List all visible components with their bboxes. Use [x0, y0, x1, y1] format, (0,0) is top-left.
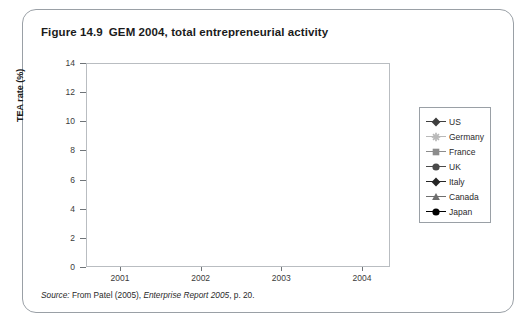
circle-marker-icon	[426, 206, 446, 218]
data-point-marker	[433, 148, 440, 155]
y-tick-label: 4	[23, 204, 75, 214]
source-text-after: , p. 20.	[229, 290, 254, 300]
y-tick-label: 2	[23, 233, 75, 243]
legend: USGermanyFranceUKItalyCanadaJapan	[419, 107, 491, 223]
legend-item-germany[interactable]: Germany	[426, 129, 490, 144]
plot-area	[86, 63, 390, 267]
page-title: Figure 14.9GEM 2004, total entrepreneuri…	[41, 26, 328, 38]
figure-card: Figure 14.9GEM 2004, total entrepreneuri…	[22, 9, 514, 313]
x-tick-label: 2001	[90, 273, 150, 283]
star-marker-icon	[426, 131, 446, 143]
y-tick-label: 10	[23, 116, 75, 126]
square-marker-icon	[426, 146, 446, 158]
legend-label: France	[449, 147, 475, 157]
data-point-marker	[432, 177, 441, 186]
y-tick-label: 14	[23, 58, 75, 68]
data-point-marker	[432, 208, 439, 215]
y-tick-mark	[80, 267, 86, 268]
y-tick-label: 6	[23, 175, 75, 185]
source-label: Source:	[41, 290, 70, 300]
source-note: Source: From Patel (2005), Enterprise Re…	[41, 290, 255, 300]
data-point-marker	[432, 117, 441, 126]
legend-item-japan[interactable]: Japan	[426, 204, 490, 219]
y-tick-label: 8	[23, 145, 75, 155]
legend-label: UK	[449, 162, 461, 172]
legend-label: US	[449, 117, 461, 127]
legend-item-italy[interactable]: Italy	[426, 174, 490, 189]
legend-label: Germany	[449, 132, 484, 142]
y-tick-label: 0	[23, 262, 75, 272]
legend-label: Japan	[449, 207, 472, 217]
plot-frame	[86, 63, 390, 267]
data-point-marker	[432, 163, 439, 170]
legend-item-us[interactable]: US	[426, 114, 490, 129]
x-tick-label: 2004	[332, 273, 392, 283]
source-text-before: From Patel (2005),	[70, 290, 144, 300]
figure-title-text: GEM 2004, total entrepreneurial activity	[109, 26, 328, 38]
diamond-marker-icon	[426, 176, 446, 188]
legend-item-france[interactable]: France	[426, 144, 490, 159]
legend-item-uk[interactable]: UK	[426, 159, 490, 174]
legend-label: Canada	[449, 192, 479, 202]
legend-item-canada[interactable]: Canada	[426, 189, 490, 204]
legend-label: Italy	[449, 177, 465, 187]
x-tick-label: 2003	[251, 273, 311, 283]
circle-marker-icon	[426, 161, 446, 173]
source-italic-title: Enterprise Report 2005	[143, 290, 229, 300]
y-tick-label: 12	[23, 87, 75, 97]
data-point-marker	[432, 193, 440, 200]
data-point-marker	[432, 132, 440, 140]
triangle-marker-icon	[426, 191, 446, 203]
x-tick-label: 2002	[171, 273, 231, 283]
diamond-marker-icon	[426, 116, 446, 128]
figure-number: Figure 14.9	[41, 26, 103, 38]
